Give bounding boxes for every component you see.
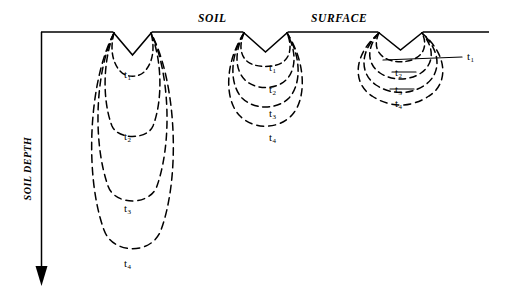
- wetting-front-middle-t1: [241, 33, 290, 67]
- time-label-subscript: 2: [273, 89, 277, 97]
- time-label-left-t2: t2: [124, 131, 131, 142]
- time-label-text: t: [467, 50, 470, 62]
- time-label-right-t4: t4: [395, 98, 402, 109]
- wetting-front-middle-t4: [229, 33, 303, 126]
- time-label-subscript: 3: [128, 208, 132, 216]
- time-label-text: t: [269, 83, 272, 95]
- time-label-text: t: [124, 130, 127, 142]
- time-label-text: t: [269, 61, 272, 73]
- header-label-surface: SURFACE: [311, 12, 367, 24]
- time-label-subscript: 4: [399, 103, 403, 111]
- time-label-subscript: 3: [273, 113, 277, 121]
- wetting-front-left-t3: [98, 33, 167, 201]
- soil-wetting-front-figure: [0, 0, 507, 300]
- time-label-subscript: 1: [273, 67, 277, 75]
- time-label-middle-t2: t2: [269, 84, 276, 95]
- time-label-right-t3: t3: [395, 84, 402, 95]
- t1-leader-line-right: [383, 57, 462, 60]
- wetting-fronts-middle-group: [229, 33, 303, 126]
- wetting-fronts-left-group: [92, 33, 174, 249]
- time-label-subscript: 3: [399, 89, 403, 97]
- time-label-subscript: 1: [471, 56, 475, 64]
- time-label-text: t: [395, 97, 398, 109]
- time-label-text: t: [124, 202, 127, 214]
- time-label-right-t2: t2: [395, 67, 402, 78]
- time-label-left-t4: t4: [124, 258, 131, 269]
- diagram-canvas: SOIL SURFACE SOIL DEPTH t1 t2 t3 t4 t1 t…: [0, 0, 507, 300]
- time-label-text: t: [269, 107, 272, 119]
- time-label-right-t1: t1: [467, 51, 474, 62]
- time-label-text: t: [124, 257, 127, 269]
- notch-middle-furrow: [243, 32, 288, 52]
- time-label-subscript: 4: [128, 263, 132, 271]
- soil-depth-axis-label: SOIL DEPTH: [22, 123, 33, 215]
- notch-left-furrow: [113, 32, 152, 55]
- down-arrow-icon: [36, 266, 48, 286]
- time-label-subscript: 2: [128, 136, 132, 144]
- wetting-fronts-right-group: [358, 33, 462, 105]
- time-label-left-t3: t3: [124, 203, 131, 214]
- time-label-text: t: [395, 66, 398, 78]
- soil-depth-axis: [36, 32, 48, 286]
- wetting-front-middle-t3: [233, 33, 298, 107]
- time-label-subscript: 1: [128, 74, 132, 82]
- time-label-left-t1: t1: [124, 69, 131, 80]
- header-label-soil: SOIL: [198, 12, 227, 24]
- time-label-text: t: [124, 68, 127, 80]
- time-label-middle-t1: t1: [269, 62, 276, 73]
- time-label-subscript: 2: [399, 72, 403, 80]
- ground-surface-group: [41, 32, 489, 55]
- time-label-middle-t4: t4: [269, 132, 276, 143]
- notch-right-furrow: [378, 32, 423, 50]
- time-label-text: t: [269, 131, 272, 143]
- time-label-middle-t3: t3: [269, 108, 276, 119]
- wetting-front-left-t2: [105, 33, 160, 137]
- time-label-text: t: [395, 83, 398, 95]
- time-label-subscript: 4: [273, 137, 277, 145]
